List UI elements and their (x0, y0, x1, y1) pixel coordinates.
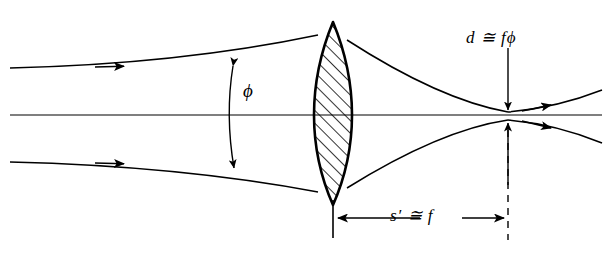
outgoing-ray-upper (347, 40, 508, 112)
incoming-ray-lower (10, 162, 318, 192)
incoming-ray-upper (10, 35, 318, 68)
outgoing-ray-lower (347, 120, 508, 188)
beam-tilt-angle-label: ϕ (243, 80, 253, 102)
beam-tilt-angle-arc (229, 66, 234, 168)
outgoing-ray-lower-after-waist (508, 120, 602, 143)
outgoing-ray-upper-arrow (522, 105, 551, 111)
incoming-ray-upper-arrow (95, 66, 124, 67)
outgoing-ray-upper-after-waist (508, 90, 602, 112)
figure-canvas (0, 0, 612, 254)
optics-figure: ϕ d ≅ fϕ s′ ≅ f (0, 0, 612, 254)
biconvex-lens-body (314, 22, 352, 205)
focal-spot-diameter-label: d ≅ fϕ (466, 27, 517, 48)
image-distance-label: s′ ≅ f (390, 205, 434, 226)
incoming-ray-lower-arrow (95, 163, 124, 164)
outgoing-ray-lower-arrow (522, 121, 551, 128)
